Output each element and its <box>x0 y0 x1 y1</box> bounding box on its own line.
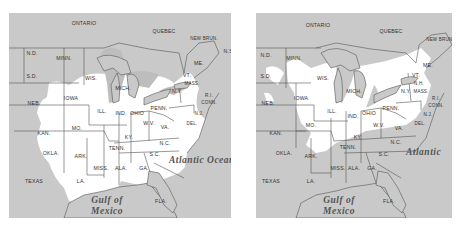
label-kansas: KAN. <box>38 130 51 136</box>
label-west-virginia: W.V. <box>143 120 154 126</box>
label-illinois: ILL. <box>97 108 106 114</box>
label-mississippi: MISS. <box>93 165 108 171</box>
label-north-dakota: N.D. <box>26 50 37 56</box>
label-south-dakota: S.D. <box>27 73 38 79</box>
label-south-carolina: S.C. <box>150 151 161 157</box>
label-maine: ME. <box>194 60 204 66</box>
label-mississippi: MISS. <box>330 165 345 171</box>
label-new-brunswick: NEW BRUN. <box>426 37 452 42</box>
label-vermont: VT. <box>183 72 191 78</box>
label-arkansas: ARK. <box>75 153 88 159</box>
label-connecticut: CONN. <box>201 100 217 105</box>
label-vermont: VT. <box>412 72 420 78</box>
label-ohio: OHIO <box>130 110 144 116</box>
label-pennsylvania: PENN. <box>151 105 168 111</box>
label-wisconsin: WIS. <box>317 75 329 81</box>
label-iowa: IOWA <box>294 95 308 101</box>
label-illinois: ILL. <box>327 108 336 114</box>
label-south-carolina: S.C. <box>379 151 390 157</box>
label-nova-scotia: N.S. <box>224 48 231 54</box>
label-delaware: DEL. <box>415 121 426 126</box>
label-oklahoma: OKLA. <box>276 150 292 156</box>
label-minnesota: MINN. <box>286 55 302 61</box>
label-massachusetts: MASS. <box>413 89 428 94</box>
label-georgia: GA. <box>367 165 377 171</box>
label-ontario: ONTARIO <box>72 20 97 26</box>
label-connecticut: CONN. <box>428 103 444 108</box>
label-texas: TEXAS <box>25 178 43 184</box>
label-nebraska: NEB. <box>262 100 275 106</box>
label-atlantic-ocean: Atlantic Ocean <box>169 155 231 165</box>
label-north-carolina: N.C. <box>390 139 401 145</box>
label-pennsylvania: PENN. <box>383 105 400 111</box>
label-louisiana: LA. <box>307 178 315 184</box>
label-gulf-of-mexico: Gulf of Mexico <box>323 195 355 217</box>
label-indiana: IND. <box>115 110 126 116</box>
gulf-line-2: Mexico <box>323 206 355 217</box>
label-michigan: MICH. <box>115 85 131 91</box>
label-new-jersey: N.J. <box>424 112 433 117</box>
label-texas: TEXAS <box>262 178 280 184</box>
label-new-hampshire: N.H. <box>414 81 424 86</box>
label-quebec: QUEBEC <box>152 28 175 34</box>
label-iowa: IOWA <box>64 95 78 101</box>
label-florida: FLA. <box>155 198 167 204</box>
gulf-line-1: Gulf of <box>91 195 123 206</box>
label-massachusetts: MASS. <box>184 81 199 86</box>
label-new-jersey: N.J. <box>195 111 204 116</box>
label-georgia: GA. <box>139 165 149 171</box>
label-nebraska: NEB. <box>28 100 41 106</box>
label-kentucky: KY. <box>125 134 133 140</box>
label-missouri: MO. <box>72 125 82 131</box>
label-new-york: N.Y. <box>172 88 182 94</box>
label-minnesota: MINN. <box>56 55 72 61</box>
label-virginia: VA. <box>395 125 404 131</box>
label-maine: ME. <box>423 62 433 68</box>
label-missouri: MO. <box>306 122 316 128</box>
label-ohio: OHIO <box>362 110 376 116</box>
label-tennessee: TENN. <box>340 144 357 150</box>
label-arkansas: ARK. <box>305 153 318 159</box>
label-rhode-island: R.I. <box>205 93 213 98</box>
label-west-virginia: W.V. <box>373 122 384 128</box>
label-atlantic: Atlantic <box>406 147 441 157</box>
label-new-york: N.Y. <box>401 88 411 94</box>
label-quebec: QUEBEC <box>379 28 402 34</box>
label-ontario: ONTARIO <box>306 22 331 28</box>
label-florida: FLA. <box>383 198 395 204</box>
range-area <box>37 73 209 205</box>
label-south-dakota: S.D. <box>261 73 272 79</box>
label-north-carolina: N.C. <box>159 140 170 146</box>
label-tennessee: TENN. <box>109 145 126 151</box>
label-alabama: ALA. <box>348 165 360 171</box>
label-wisconsin: WIS. <box>85 75 97 81</box>
label-michigan: MICH. <box>346 88 362 94</box>
label-new-brunswick: NEW BRUN. <box>190 36 218 41</box>
distribution-map-left: ONTARIO QUEBEC NEW BRUN. N.S. N.D. S.D. … <box>9 13 231 218</box>
label-north-dakota: N.D. <box>260 52 271 58</box>
distribution-map-right: ONTARIO QUEBEC NEW BRUN. N.D. S.D. NEB. … <box>256 13 452 218</box>
label-delaware: DEL. <box>187 121 198 126</box>
label-rhode-island: R.I. <box>432 96 440 101</box>
label-indiana: IND. <box>347 113 358 119</box>
label-louisiana: LA. <box>77 178 85 184</box>
label-gulf-of-mexico: Gulf of Mexico <box>91 195 123 217</box>
label-virginia: VA. <box>161 124 170 130</box>
label-kentucky: KY. <box>354 134 362 140</box>
label-alabama: ALA. <box>115 165 127 171</box>
gulf-line-1: Gulf of <box>323 195 355 206</box>
label-kansas: KAN. <box>270 130 283 136</box>
gulf-line-2: Mexico <box>91 206 123 217</box>
label-oklahoma: OKLA. <box>43 150 59 156</box>
